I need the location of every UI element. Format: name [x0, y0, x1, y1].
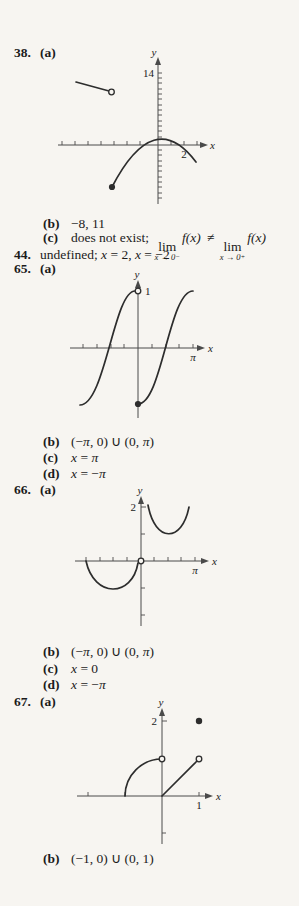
closed-point — [109, 184, 115, 190]
problem-65-header: 65.(a) — [14, 261, 56, 277]
answer-text: does not exist; — [71, 230, 149, 245]
function-curves — [125, 718, 202, 796]
function-curves — [76, 82, 196, 190]
x-axis: x π — [75, 555, 217, 576]
problem-66-header: 66.(a) — [14, 482, 56, 498]
graph-67a: y 2 x 1 — [70, 698, 220, 848]
lower-valley-branch — [86, 561, 138, 589]
limit-expression-right: limx → 0+ — [220, 240, 246, 262]
x-axis-label: x — [209, 139, 215, 151]
answer-65c: (c)x = π — [43, 450, 98, 466]
answer-67b: (b)(−1, 0) ∪ (0, 1) — [43, 851, 154, 867]
fx-right: f(x) — [247, 230, 266, 245]
answer-65b: (b)(−π, 0) ∪ (0, π) — [43, 434, 154, 450]
fx-left: f(x) — [182, 230, 201, 245]
y-axis: y 2 — [131, 484, 147, 626]
diagonal-line-branch — [162, 761, 197, 796]
x-tick-label-pi: π — [192, 564, 198, 576]
y-axis-label: y — [137, 484, 143, 496]
not-equal-sign: ≠ — [207, 230, 214, 245]
part-a-label: (a) — [40, 694, 56, 709]
problem-number: 65. — [14, 261, 40, 277]
x-tick-label-1: 1 — [196, 799, 202, 811]
line-segment-branch — [76, 82, 109, 91]
x-axis: x π — [70, 342, 213, 363]
y-axis-label: y — [134, 268, 140, 280]
graph-66a: y 2 x π — [70, 488, 220, 630]
closed-point-1-2 — [196, 718, 202, 724]
upper-u-branch — [148, 505, 189, 534]
parabola-branch — [112, 139, 196, 187]
y-axis: y 14 — [143, 46, 162, 204]
open-point-origin — [138, 558, 144, 564]
y-tick-label-14: 14 — [143, 67, 155, 79]
answer-65d: (d)x = −π — [43, 466, 106, 482]
answer-66d: (d)x = −π — [43, 677, 106, 693]
y-tick-label-1: 1 — [145, 285, 151, 297]
open-point — [109, 89, 115, 95]
y-axis-label: y — [151, 46, 157, 58]
open-point-1-1 — [196, 756, 202, 762]
open-point-0-1 — [159, 756, 165, 762]
closed-point — [135, 401, 141, 407]
x-tick-label-pi: π — [190, 351, 196, 363]
y-tick-label-2: 2 — [131, 501, 137, 513]
y-axis-label: y — [158, 696, 164, 708]
x-axis-label: x — [207, 342, 213, 354]
y-tick-label-2: 2 — [152, 715, 158, 727]
problem-67-header: 67.(a) — [14, 694, 56, 710]
answer-66c: (c)x = 0 — [43, 661, 98, 677]
function-curves — [86, 505, 189, 589]
x-axis: x 1 — [77, 790, 221, 811]
answer-66b: (b)(−π, 0) ∪ (0, π) — [43, 644, 154, 660]
graph-38a: y 14 x 2 — [50, 44, 215, 212]
x-axis-label: x — [215, 790, 221, 802]
part-a-label: (a) — [40, 482, 56, 497]
x-axis-label: x — [211, 555, 217, 567]
problem-number: 66. — [14, 482, 40, 498]
part-c-label: (c) — [43, 230, 71, 246]
problem-number: 67. — [14, 694, 40, 710]
quarter-circle-branch — [125, 759, 162, 796]
answers-page: 38.(a) y 14 x 2 (b)−8, 11 (c)does not — [0, 0, 299, 906]
answer-text: −8, 11 — [71, 216, 105, 231]
problem-number: 38. — [14, 45, 40, 61]
open-point — [135, 288, 141, 294]
y-axis: y 2 — [152, 696, 168, 844]
graph-65a: y 1 x π — [60, 270, 215, 424]
part-a-label: (a) — [40, 261, 56, 276]
answer-text: (−1, 0) ∪ (0, 1) — [71, 851, 154, 866]
